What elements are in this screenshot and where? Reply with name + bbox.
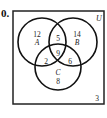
universe-label: U [96,14,103,23]
region-outside: 3 [95,94,99,103]
region-a-and-b: 5 [56,34,60,43]
region-a-and-c: 2 [44,57,48,66]
region-b-and-c: 6 [68,57,72,66]
set-a-label: A [34,38,40,47]
region-c-only: 8 [56,77,60,86]
venn-diagram: U 12 A 14 B 5 9 2 6 C 8 3 [0,0,107,118]
set-b-label: B [75,38,80,47]
set-c-label: C [55,68,61,77]
region-a-b-c: 9 [56,49,60,58]
